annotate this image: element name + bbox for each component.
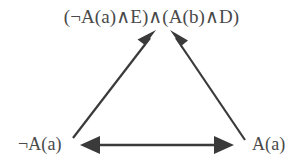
diagram-canvas: (¬A(a)∧E)∧(A(b)∧D) ¬A(a) A(a) [0,0,303,167]
node-label-apex: (¬A(a)∧E)∧(A(b)∧D) [0,6,303,28]
edge-right-to-apex [170,30,245,140]
edge-left-to-apex [73,30,156,138]
edge-right-to-apex-line [176,38,245,140]
edge-left-right-arrowhead-left [80,136,100,154]
node-label-right: A(a) [252,133,285,155]
edge-left-right [80,136,234,154]
edge-left-to-apex-arrowhead [138,30,157,52]
edge-right-to-apex-arrowhead [170,30,188,53]
node-label-left: ¬A(a) [18,133,62,155]
edge-left-to-apex-line [73,38,150,138]
edge-left-right-arrowhead-right [214,136,234,154]
